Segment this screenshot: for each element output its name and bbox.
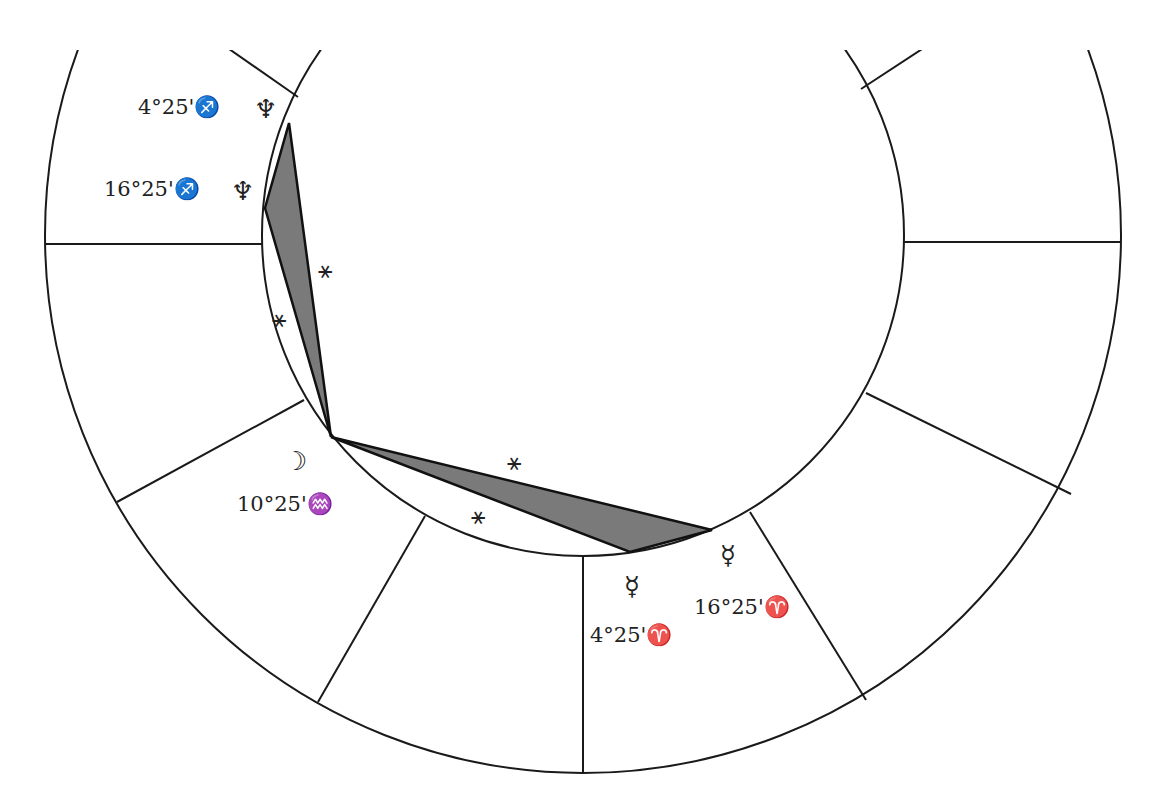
mercury-glyph-icon: ☿ [624,573,640,599]
astrology-wheel [0,0,1169,801]
neptune-position-label-2: 16°25'♐ [104,179,200,200]
aspect-wedge-moon-mercury [331,437,712,552]
house-cusp [866,393,1071,494]
moon-glyph-icon: ☽ [284,448,307,474]
house-cusp [110,0,298,97]
house-cusp [861,0,1049,89]
neptune-position-label-1: 4°25'♐ [138,97,220,118]
sextile-icon: ⚹ [471,504,485,528]
inner-ring [262,0,904,556]
mercury-position-label-2: 16°25'♈ [694,597,790,618]
neptune-glyph-icon: ♆ [254,96,277,122]
house-cusp [318,516,425,702]
mercury-glyph-icon: ☿ [720,542,736,568]
house-cusp [117,400,304,502]
moon-position-label: 10°25'♒ [237,494,333,515]
sextile-icon: ⚹ [507,450,521,474]
mercury-position-label-1: 4°25'♈ [590,625,672,646]
sextile-icon: ⚹ [272,307,286,331]
sextile-icon: ⚹ [318,258,332,282]
neptune-glyph-icon: ♆ [231,178,254,204]
